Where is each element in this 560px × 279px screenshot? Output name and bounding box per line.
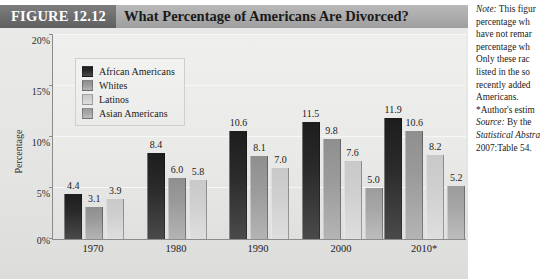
legend-swatch-icon <box>82 66 93 77</box>
bar[interactable]: 11.5 <box>302 122 320 239</box>
bar-value-label: 7.6 <box>346 147 359 158</box>
x-tick-label: 2010* <box>411 243 437 254</box>
legend-label: African Americans <box>99 66 175 77</box>
source-line: Source: By the <box>476 116 560 129</box>
bar-value-label: 4.4 <box>67 180 80 191</box>
note-line: percentage wh <box>476 41 560 54</box>
y-tick-label: 20% <box>4 35 50 46</box>
note-line: Americans. <box>476 91 560 104</box>
bar-group-1990: 10.6 8.1 7.0 <box>218 34 301 239</box>
bar[interactable]: 8.2 <box>426 155 444 239</box>
plot-area: 4.4 3.1 3.9 8.4 6.0 5.8 10.6 8.1 7.0 <box>52 34 466 239</box>
legend-item-latinos[interactable]: Latinos <box>82 92 175 106</box>
figure-source: Source: By the Statistical Abstra 2007:T… <box>476 116 560 154</box>
bar[interactable]: 7.6 <box>344 161 362 239</box>
bar[interactable]: 5.8 <box>189 180 207 239</box>
bar-value-label: 7.0 <box>274 154 287 165</box>
legend-label: Latinos <box>99 94 129 105</box>
bar[interactable]: 5.2 <box>447 186 465 239</box>
bar-value-label: 8.4 <box>150 139 163 150</box>
bar-value-label: 3.1 <box>88 193 101 204</box>
legend-swatch-icon <box>82 108 93 119</box>
legend-item-asian-americans[interactable]: Asian Americans <box>82 106 175 120</box>
legend-item-african-americans[interactable]: African Americans <box>82 64 175 78</box>
legend-swatch-icon <box>82 80 93 91</box>
note-line: have not remar <box>476 28 560 41</box>
legend-swatch-icon <box>82 94 93 105</box>
bar-value-label: 5.2 <box>450 172 463 183</box>
bar[interactable]: 9.8 <box>323 139 341 239</box>
figure-note: Note: This figur percentage wh have not … <box>476 3 560 116</box>
note-line: *Author's estim <box>476 104 560 117</box>
bar[interactable]: 11.9 <box>384 118 402 239</box>
bar[interactable]: 4.4 <box>64 194 82 239</box>
note-line: Note: This figur <box>476 3 560 16</box>
bar-group-2010: 11.9 10.6 8.2 5.2 <box>383 34 466 239</box>
x-tick-label: 1980 <box>166 243 187 254</box>
bar[interactable]: 10.6 <box>405 131 423 239</box>
figure-container: FIGURE 12.12 What Percentage of American… <box>0 0 560 279</box>
note-line: listed in the so <box>476 66 560 79</box>
bar-value-label: 6.0 <box>171 164 184 175</box>
bar-value-label: 10.6 <box>230 117 248 128</box>
legend-label: Whites <box>99 80 127 91</box>
bar-value-label: 3.9 <box>109 185 122 196</box>
note-line: recently added <box>476 79 560 92</box>
figure-title: What Percentage of Americans Are Divorce… <box>124 5 409 28</box>
x-tick-label: 1990 <box>248 243 269 254</box>
source-line: 2007:Table 54. <box>476 142 560 155</box>
y-axis-tick-labels: 20% 15% 10% 5% 0% <box>0 28 50 279</box>
bar-value-label: 11.9 <box>385 104 402 115</box>
x-axis-line <box>52 239 466 240</box>
bar[interactable]: 6.0 <box>168 178 186 239</box>
bar-value-label: 9.8 <box>325 125 338 136</box>
bar-value-label: 10.6 <box>405 117 423 128</box>
y-tick-label: 0% <box>4 235 50 246</box>
bar[interactable]: 3.1 <box>85 207 103 239</box>
y-tick-label: 15% <box>4 86 50 97</box>
bar[interactable]: 7.0 <box>271 168 289 239</box>
bar[interactable]: 10.6 <box>229 131 247 239</box>
bar[interactable]: 5.0 <box>365 188 383 239</box>
bar[interactable]: 8.4 <box>147 153 165 239</box>
legend-item-whites[interactable]: Whites <box>82 78 175 92</box>
x-tick-label: 1970 <box>83 243 104 254</box>
figure-title-bar: FIGURE 12.12 What Percentage of American… <box>0 5 468 28</box>
bar[interactable]: 3.9 <box>106 199 124 239</box>
legend-label: Asian Americans <box>99 108 168 119</box>
bar[interactable]: 8.1 <box>250 156 268 239</box>
note-line: percentage wh <box>476 16 560 29</box>
x-tick-label: 2000 <box>331 243 352 254</box>
source-line: Statistical Abstra <box>476 129 560 142</box>
bar-value-label: 8.2 <box>429 141 442 152</box>
chart-legend: African Americans Whites Latinos Asian A… <box>75 58 185 126</box>
bar-value-label: 5.0 <box>367 174 380 185</box>
y-tick-label: 5% <box>4 188 50 199</box>
note-line: Only these rac <box>476 53 560 66</box>
bar-value-label: 5.8 <box>192 166 205 177</box>
bar-value-label: 8.1 <box>253 142 266 153</box>
bar-value-label: 11.5 <box>302 108 319 119</box>
chart-panel: Percentage 20% 15% 10% 5% 0% 4.4 3.1 <box>0 28 468 279</box>
bar-group-2000: 11.5 9.8 7.6 5.0 <box>301 34 384 239</box>
figure-number-label: FIGURE 12.12 <box>0 5 116 28</box>
y-tick-label: 10% <box>4 137 50 148</box>
figure-note-column: Note: This figur percentage wh have not … <box>476 3 560 279</box>
